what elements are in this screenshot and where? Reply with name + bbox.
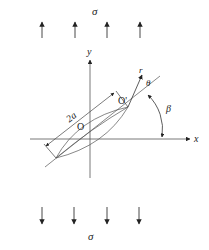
stress-top-label: σ xyxy=(92,5,98,17)
polar-r-label: r xyxy=(139,65,143,75)
stress-bottom-label: σ xyxy=(88,230,94,242)
x-axis-label: x xyxy=(193,133,199,144)
crack-tip-label: O' xyxy=(118,95,127,106)
crack-angle-label: β xyxy=(165,103,171,114)
crack-diagram: σ y x 2a O O' r θ β σ xyxy=(0,0,209,250)
polar-theta-label: θ xyxy=(146,78,151,88)
y-axis-label: y xyxy=(86,46,92,57)
polar-r-arrow xyxy=(128,75,142,107)
top-stress-arrows xyxy=(42,22,140,38)
beta-angle-arc xyxy=(148,95,163,137)
crack-axis-line xyxy=(45,76,160,167)
bottom-stress-arrows xyxy=(42,207,139,224)
origin-label: O xyxy=(77,121,84,132)
